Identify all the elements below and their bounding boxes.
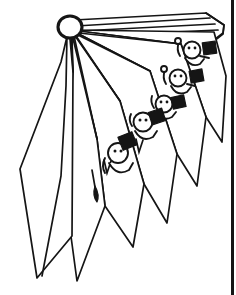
- binder-ring: [58, 16, 82, 38]
- figure-3-eye-left: [160, 101, 163, 104]
- figure-4-eye-right: [145, 119, 148, 122]
- figure-2-head: [170, 70, 187, 87]
- right-edge-rule: [231, 0, 234, 295]
- figure-3-eye-right: [166, 101, 169, 104]
- figure-3-black-box: [171, 95, 186, 109]
- figure-5-eye-right: [120, 150, 123, 153]
- figure-2-black-box: [189, 69, 204, 83]
- figure-2-eye-right: [180, 75, 183, 78]
- figure-1-antenna-knob: [175, 38, 181, 44]
- figure-1-eye-left: [188, 47, 191, 50]
- figure-1-head: [184, 42, 201, 59]
- figure-5-eye-left: [114, 150, 117, 153]
- figure-2-eye-left: [174, 75, 177, 78]
- illustration-canvas: [0, 0, 236, 295]
- figure-1-eye-right: [194, 47, 197, 50]
- figure-2-antenna-knob: [161, 66, 167, 72]
- line-drawing: [0, 0, 236, 295]
- figure-1-black-box: [202, 41, 217, 55]
- figure-4-eye-left: [139, 119, 142, 122]
